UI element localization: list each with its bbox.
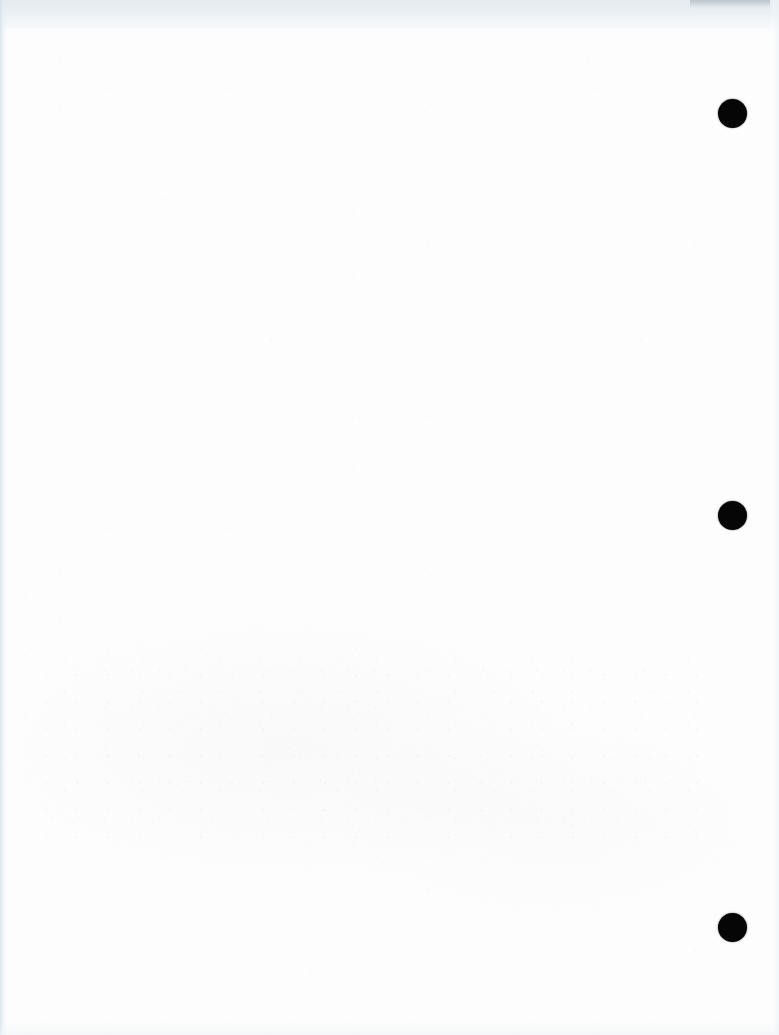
- punch-hole: [718, 99, 747, 128]
- paper-background: [0, 0, 779, 1035]
- scanned-page: [0, 0, 779, 1035]
- punch-hole: [718, 501, 747, 530]
- punch-hole: [718, 913, 747, 942]
